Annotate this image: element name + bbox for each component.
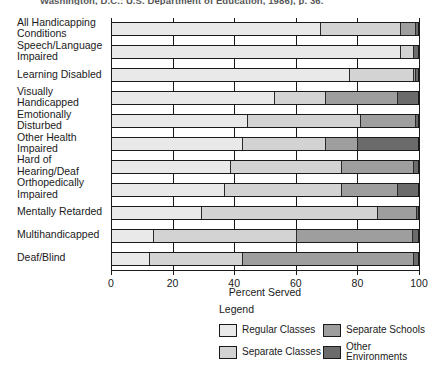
legend-item: Other Environments — [323, 341, 427, 363]
bar-segment — [415, 115, 418, 127]
plot-area — [111, 18, 419, 270]
bar-row — [111, 22, 419, 36]
bar-segment — [112, 23, 320, 35]
legend-label: Separate Schools — [346, 325, 425, 336]
bar-segment — [242, 253, 413, 265]
x-tick-20 — [173, 270, 174, 275]
bar-segment — [349, 69, 413, 81]
bar-row — [111, 252, 419, 266]
x-tick-label-40: 40 — [219, 277, 249, 289]
legend-label: Regular Classes — [242, 325, 315, 336]
bar-segment — [153, 230, 295, 242]
legend-swatch-icon — [323, 324, 341, 337]
category-label: All Handicapping Conditions — [17, 17, 113, 40]
category-label: Multihandicapped — [17, 229, 113, 241]
bar-segment — [247, 115, 360, 127]
bar-row — [111, 68, 419, 82]
bar-segment — [415, 69, 418, 81]
legend-swatch-icon — [323, 346, 341, 359]
bar-segment — [112, 161, 230, 173]
bar-segment — [397, 92, 418, 104]
bar-segment — [415, 23, 418, 35]
x-tick-label-20: 20 — [158, 277, 188, 289]
legend-swatch-icon — [219, 346, 237, 359]
bar-row — [111, 206, 419, 220]
legend-label: Separate Classes — [242, 347, 321, 358]
bar-row — [111, 137, 419, 151]
bar-segment — [112, 138, 242, 150]
bar-segment — [242, 138, 325, 150]
bar-segment — [201, 207, 377, 219]
bar-segment — [416, 207, 418, 219]
x-tick-label-100: 100 — [404, 277, 434, 289]
legend-item: Separate Classes — [219, 341, 323, 363]
legend-label: Other Environments — [346, 342, 407, 363]
bar-segment — [230, 161, 342, 173]
x-tick-label-0: 0 — [96, 277, 126, 289]
category-label: Mentally Retarded — [17, 206, 113, 218]
gridline-100 — [419, 18, 420, 270]
bar-segment — [149, 253, 242, 265]
category-label: Deaf/Blind — [17, 252, 113, 264]
bar-segment — [112, 92, 274, 104]
bar-segment — [274, 92, 324, 104]
bar-segment — [112, 69, 349, 81]
bar-segment — [112, 46, 400, 58]
bar-segment — [397, 184, 418, 196]
legend-items: Regular ClassesSeparate SchoolsSeparate … — [219, 319, 434, 363]
category-label: Visually Handicapped — [17, 86, 113, 109]
bar-segment — [112, 253, 149, 265]
category-label: Emotionally Disturbed — [17, 109, 113, 132]
bar-segment — [400, 46, 414, 58]
bar-segment — [377, 207, 417, 219]
bar-segment — [413, 46, 418, 58]
bar-segment — [112, 230, 153, 242]
category-label: Orthopedically Impaired — [17, 177, 113, 200]
x-tick-label-60: 60 — [281, 277, 311, 289]
legend-item: Separate Schools — [323, 319, 427, 341]
citation-line: Washington, D.C.: U.S. Department of Edu… — [0, 0, 447, 5]
x-tick-100 — [419, 270, 420, 275]
bar-row — [111, 160, 419, 174]
legend-title: Legend — [219, 303, 434, 315]
legend-swatch-icon — [219, 324, 237, 337]
bar-segment — [112, 184, 224, 196]
bar-segment — [112, 115, 247, 127]
bar-segment — [412, 230, 418, 242]
x-tick-80 — [357, 270, 358, 275]
category-label: Learning Disabled — [17, 69, 113, 81]
x-axis-line — [111, 270, 419, 271]
bar-segment — [112, 207, 201, 219]
x-tick-40 — [234, 270, 235, 275]
bar-segment — [224, 184, 342, 196]
category-label: Other Health Impaired — [17, 132, 113, 155]
bar-row — [111, 91, 419, 105]
category-label: Hard of Hearing/Deaf — [17, 154, 113, 177]
legend-item: Regular Classes — [219, 319, 323, 341]
category-label: Speech/Language Impaired — [17, 40, 113, 63]
bar-segment — [325, 92, 397, 104]
x-tick-0 — [111, 270, 112, 275]
bar-segment — [325, 138, 357, 150]
bar-segment — [320, 23, 400, 35]
bar-segment — [341, 161, 413, 173]
bar-segment — [400, 23, 415, 35]
bar-row — [111, 183, 419, 197]
x-tick-60 — [296, 270, 297, 275]
bar-segment — [357, 138, 418, 150]
bar-segment — [360, 115, 415, 127]
bar-row — [111, 114, 419, 128]
bar-segment — [413, 161, 418, 173]
bar-segment — [413, 253, 418, 265]
x-tick-label-80: 80 — [342, 277, 372, 289]
bar-row — [111, 229, 419, 243]
bar-segment — [296, 230, 412, 242]
legend: Legend Regular ClassesSeparate SchoolsSe… — [219, 303, 434, 363]
bar-row — [111, 45, 419, 59]
bar-segment — [341, 184, 396, 196]
